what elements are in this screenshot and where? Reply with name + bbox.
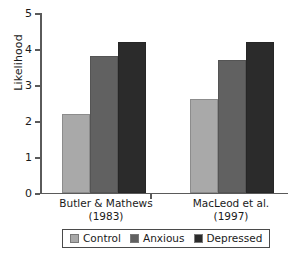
bar-anxious-group-1 bbox=[90, 56, 118, 193]
legend-label-depressed: Depressed bbox=[207, 233, 263, 244]
bar-chart: Likelihood 0 1 2 3 4 5 Butler & Mathews … bbox=[0, 0, 299, 254]
x-category-label-1-line1: Butler & Mathews bbox=[59, 197, 152, 209]
y-tick-1 bbox=[35, 157, 40, 159]
x-category-label-2-line2: (1997) bbox=[172, 210, 290, 223]
y-axis-line bbox=[40, 13, 42, 194]
bar-control-group-1 bbox=[62, 114, 90, 193]
bar-depressed-group-1 bbox=[118, 42, 146, 193]
x-category-label-1: Butler & Mathews (1983) bbox=[44, 197, 168, 223]
y-tick-4 bbox=[35, 49, 40, 51]
x-category-label-2-line1: MacLeod et al. bbox=[193, 197, 269, 209]
legend-item-anxious: Anxious bbox=[130, 233, 185, 244]
legend-swatch-anxious-icon bbox=[130, 234, 139, 243]
legend-swatch-depressed-icon bbox=[194, 234, 203, 243]
x-category-label-2: MacLeod et al. (1997) bbox=[172, 197, 290, 223]
y-tick-3 bbox=[35, 85, 40, 87]
bar-anxious-group-2 bbox=[218, 60, 246, 193]
legend-swatch-control-icon bbox=[70, 234, 79, 243]
bar-depressed-group-2 bbox=[246, 42, 274, 193]
y-tick-0 bbox=[35, 193, 40, 195]
x-category-label-1-line2: (1983) bbox=[44, 210, 168, 223]
y-tick-2 bbox=[35, 121, 40, 123]
y-tick-label-4: 4 bbox=[14, 44, 32, 55]
chart-legend: Control Anxious Depressed bbox=[62, 229, 270, 248]
y-tick-label-2: 2 bbox=[14, 116, 32, 127]
y-tick-5 bbox=[35, 13, 40, 15]
legend-label-control: Control bbox=[83, 233, 121, 244]
legend-item-control: Control bbox=[70, 233, 121, 244]
legend-label-anxious: Anxious bbox=[143, 233, 185, 244]
legend-item-depressed: Depressed bbox=[194, 233, 263, 244]
plot-area: 0 1 2 3 4 5 bbox=[40, 13, 288, 193]
y-axis-label: Likelihood bbox=[12, 3, 25, 123]
y-tick-label-0: 0 bbox=[14, 188, 32, 199]
y-tick-label-5: 5 bbox=[14, 8, 32, 19]
y-tick-label-3: 3 bbox=[14, 80, 32, 91]
bar-control-group-2 bbox=[190, 99, 218, 193]
y-tick-label-1: 1 bbox=[14, 152, 32, 163]
